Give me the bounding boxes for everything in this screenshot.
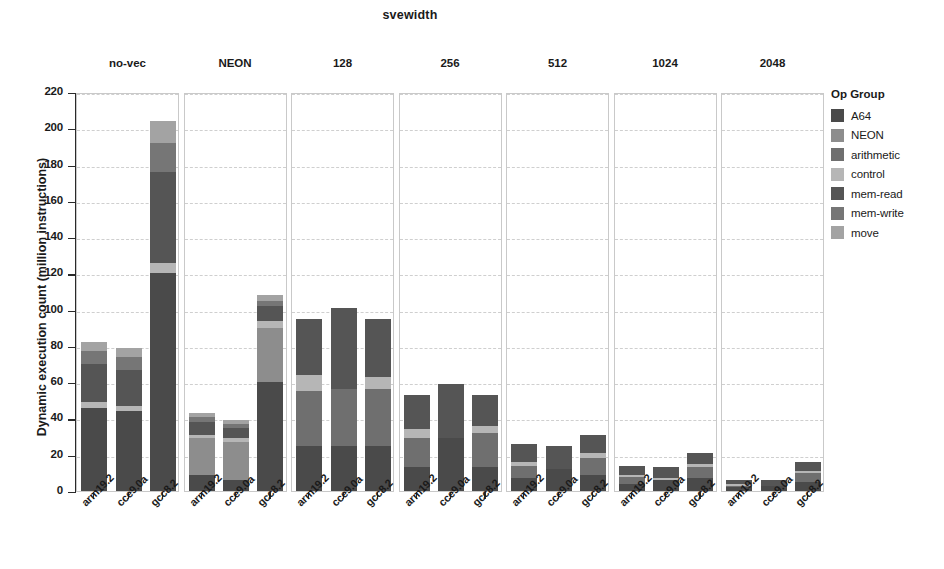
bar-segment-mem-read <box>546 446 572 470</box>
y-tick-mark <box>68 274 76 275</box>
legend-swatch-icon <box>831 109 844 122</box>
bar-no-vec-cce9.0a[interactable] <box>116 348 142 491</box>
bar-128-gcc8.2[interactable] <box>365 319 391 491</box>
bar-segment-control <box>150 263 176 274</box>
bars-layer <box>400 94 501 491</box>
bar-segment-mem-read <box>511 444 537 462</box>
legend-item-label: move <box>851 227 879 239</box>
legend-item-NEON[interactable]: NEON <box>831 129 941 142</box>
legend-item-mem-read[interactable]: mem-read <box>831 187 941 200</box>
bar-segment-mem-write <box>150 143 176 172</box>
legend-item-label: mem-read <box>851 188 903 200</box>
bar-segment-arithmetic <box>296 391 322 445</box>
bar-segment-control <box>365 377 391 390</box>
panel-plot-area <box>76 93 179 492</box>
legend-item-A64[interactable]: A64 <box>831 109 941 122</box>
bar-segment-mem-read <box>472 395 498 426</box>
y-tick-label: 220 <box>3 85 63 97</box>
y-tick-mark <box>68 202 76 203</box>
legend-item-label: control <box>851 168 885 180</box>
bars-layer <box>722 94 823 491</box>
chart-root: svewidth Dynamic execution count (millio… <box>0 0 944 569</box>
y-tick-label: 160 <box>3 194 63 206</box>
bar-segment-move <box>116 348 142 357</box>
y-tick-label: 120 <box>3 266 63 278</box>
bar-segment-A64 <box>257 382 283 491</box>
bar-segment-mem-read <box>619 466 645 475</box>
legend-item-arithmetic[interactable]: arithmetic <box>831 148 941 161</box>
bar-NEON-gcc8.2[interactable] <box>257 295 283 491</box>
legend-swatch-icon <box>831 148 844 161</box>
facet-panel-header: 2048 <box>721 48 824 78</box>
legend-item-mem-write[interactable]: mem-write <box>831 207 941 220</box>
y-tick-label: 180 <box>3 158 63 170</box>
legend-item-move[interactable]: move <box>831 226 941 239</box>
panel-plot-area <box>721 93 824 492</box>
y-tick-label: 60 <box>3 375 63 387</box>
bar-no-vec-gcc8.2[interactable] <box>150 121 176 491</box>
legend-swatch-icon <box>831 207 844 220</box>
bar-segment-mem-read <box>296 319 322 375</box>
facet-panel-128: 128arm19.2cce9.0agcc8.2 <box>291 48 394 548</box>
facet-panel-256: 256arm19.2cce9.0agcc8.2 <box>399 48 502 548</box>
bar-segment-mem-write <box>116 357 142 370</box>
legend-item-control[interactable]: control <box>831 168 941 181</box>
bar-no-vec-arm19.2[interactable] <box>81 342 107 491</box>
y-tick-mark <box>68 492 76 493</box>
bar-128-arm19.2[interactable] <box>296 319 322 491</box>
facet-panel-header: 256 <box>399 48 502 78</box>
bar-128-cce9.0a[interactable] <box>331 308 357 491</box>
facet-panel-NEON: NEONarm19.2cce9.0agcc8.2 <box>184 48 287 548</box>
bar-segment-control <box>472 426 498 433</box>
y-tick-label: 140 <box>3 230 63 242</box>
bar-segment-mem-read <box>687 453 713 464</box>
panel-plot-area <box>184 93 287 492</box>
y-tick-mark <box>68 419 76 420</box>
legend-item-label: NEON <box>851 129 884 141</box>
y-tick-label: 0 <box>3 484 63 496</box>
legend-items: A64NEONarithmeticcontrolmem-readmem-writ… <box>831 109 941 239</box>
bars-layer <box>185 94 286 491</box>
bar-segment-mem-read <box>223 428 249 439</box>
y-tick-label: 80 <box>3 339 63 351</box>
legend-swatch-icon <box>831 226 844 239</box>
panel-plot-area <box>614 93 717 492</box>
bar-segment-mem-read <box>81 364 107 402</box>
facet-panel-header: NEON <box>184 48 287 78</box>
y-tick-label: 100 <box>3 303 63 315</box>
bar-segment-mem-read <box>404 395 430 429</box>
y-tick-mark <box>68 129 76 130</box>
bar-segment-mem-read <box>795 462 821 471</box>
bar-segment-move <box>81 342 107 351</box>
y-tick-mark <box>68 238 76 239</box>
bars-layer <box>292 94 393 491</box>
bar-segment-mem-read <box>365 319 391 377</box>
y-tick-label: 200 <box>3 121 63 133</box>
bar-segment-mem-read <box>116 370 142 406</box>
facet-panel-2048: 2048arm19.2cce9.0agcc8.2 <box>721 48 824 548</box>
bars-layer <box>77 94 178 491</box>
bar-256-gcc8.2[interactable] <box>472 395 498 491</box>
bar-segment-mem-read <box>438 384 464 438</box>
bars-layer <box>507 94 608 491</box>
bar-segment-mem-read <box>150 172 176 263</box>
bar-segment-mem-read <box>331 308 357 390</box>
bar-segment-mem-write <box>81 351 107 364</box>
facet-panel-no-vec: no-vecarm19.2cce9.0agcc8.2 <box>76 48 179 548</box>
y-tick-mark <box>68 93 76 94</box>
facet-panel-header: no-vec <box>76 48 179 78</box>
bar-segment-move <box>150 121 176 143</box>
facet-panel-header: 1024 <box>614 48 717 78</box>
bar-segment-NEON <box>189 438 215 474</box>
y-tick-mark <box>68 383 76 384</box>
legend-swatch-icon <box>831 187 844 200</box>
y-tick-mark <box>68 166 76 167</box>
panel-plot-area <box>506 93 609 492</box>
bar-segment-mem-read <box>580 435 606 453</box>
y-tick-label: 40 <box>3 411 63 423</box>
legend-item-label: A64 <box>851 110 871 122</box>
facet-panel-512: 512arm19.2cce9.0agcc8.2 <box>506 48 609 548</box>
y-axis-label: Dynamic execution count (million instruc… <box>35 87 49 507</box>
legend-swatch-icon <box>831 168 844 181</box>
y-tick-mark <box>68 311 76 312</box>
